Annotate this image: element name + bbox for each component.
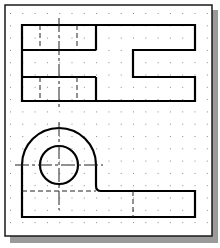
orthographic-drawing: [0, 0, 220, 248]
drawing-canvas: [0, 0, 220, 248]
drawing-frame: [5, 5, 212, 236]
